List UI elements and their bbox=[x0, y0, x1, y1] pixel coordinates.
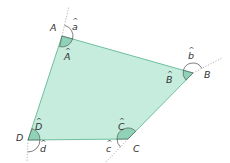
exterior-angle-hat-c: ^ bbox=[107, 139, 113, 147]
exterior-arc-c bbox=[117, 139, 121, 147]
quadrilateral-diagram: A B C D A ^ B ^ C ^ D ^ a ^ b ^ c ^ d ^ bbox=[0, 0, 230, 163]
interior-angle-hat-c: ^ bbox=[119, 117, 125, 125]
extension-line-d bbox=[27, 140, 28, 162]
vertex-label-a: A bbox=[49, 22, 57, 33]
exterior-angle-hat-b: ^ bbox=[189, 46, 195, 54]
exterior-arc-b bbox=[183, 63, 202, 70]
interior-angle-hat-a: ^ bbox=[65, 47, 71, 55]
exterior-arc-d bbox=[28, 140, 40, 152]
vertex-label-d: D bbox=[16, 132, 23, 143]
interior-angle-hat-d: ^ bbox=[36, 117, 42, 125]
interior-angle-hat-b: ^ bbox=[167, 70, 173, 78]
vertex-label-c: C bbox=[133, 143, 140, 154]
extension-line-a bbox=[62, 6, 69, 36]
quadrilateral-abcd bbox=[28, 36, 193, 140]
vertex-label-b: B bbox=[204, 69, 211, 80]
exterior-angle-hat-a: ^ bbox=[73, 17, 79, 25]
exterior-angle-hat-d: ^ bbox=[41, 139, 47, 147]
